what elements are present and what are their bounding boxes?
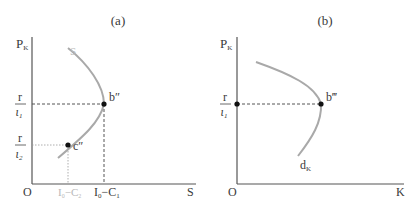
svg-text:ι2: ι2 [16, 147, 23, 162]
panel-b: (b) PK dK b‴ r ι1 O K [220, 13, 405, 199]
y-axis-label: PK [16, 36, 28, 52]
origin-label: O [23, 185, 32, 199]
point-c-double-prime-label: c″ [73, 139, 83, 153]
y-tick-r-iota-2: r ι2 [15, 131, 26, 162]
panel-a: (a) PK S b″ c″ r ι1 r ι2 [15, 13, 196, 200]
svg-text:r: r [223, 90, 227, 104]
svg-text:ι1: ι1 [221, 105, 228, 120]
point-b-double-prime [101, 101, 106, 106]
x-tick-I0-C1: I0−C1 [94, 185, 120, 200]
point-b-triple-prime-label: b‴ [326, 90, 337, 104]
point-b-double-prime-label: b″ [109, 90, 120, 104]
point-b-triple-prime [318, 101, 323, 106]
x-axis-label: S [187, 185, 194, 199]
x-tick-I0-C2: I0−C2 [58, 186, 81, 199]
y-tick-r-iota-1: r ι1 [15, 90, 26, 120]
svg-text:r: r [18, 131, 22, 145]
demand-curve-label: dK [300, 158, 311, 173]
svg-text:ι1: ι1 [16, 105, 23, 120]
demand-curve [256, 62, 321, 156]
panel-b-title: (b) [317, 13, 332, 28]
origin-label: O [228, 185, 237, 199]
supply-curve-label: S [70, 45, 76, 57]
y-axis-label: PK [220, 36, 232, 52]
diagram-canvas: (a) PK S b″ c″ r ι1 r ι2 [0, 0, 417, 211]
point-c-double-prime [65, 142, 70, 147]
x-axis-label: K [396, 185, 405, 199]
svg-text:r: r [18, 90, 22, 104]
y-tick-r-iota-1: r ι1 [220, 90, 231, 120]
axis-point-r-iota-1 [234, 101, 239, 106]
panel-a-title: (a) [111, 13, 125, 28]
